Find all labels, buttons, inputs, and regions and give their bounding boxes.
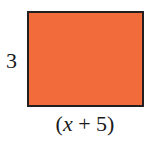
width-rest: + 5) <box>73 111 115 136</box>
width-label: (x + 5) <box>0 112 156 136</box>
rectangle <box>27 11 144 107</box>
height-label: 3 <box>6 50 17 72</box>
width-variable: x <box>63 111 73 136</box>
width-open-paren: ( <box>56 111 63 136</box>
